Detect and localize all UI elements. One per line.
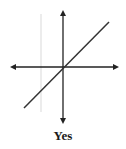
diagram-caption: Yes: [0, 128, 126, 144]
y-axis-top-arrow-icon: [60, 10, 66, 16]
y-axis-bottom-arrow-icon: [60, 118, 66, 124]
x-axis-left-arrow-icon: [10, 64, 16, 70]
coordinate-graph: [0, 0, 126, 130]
x-axis-right-arrow-icon: [113, 64, 119, 70]
linear-function-line: [24, 22, 109, 108]
